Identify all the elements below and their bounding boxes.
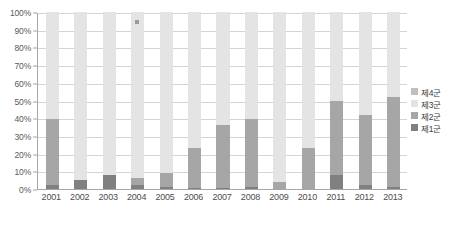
bar-segment[interactable] xyxy=(387,12,400,97)
legend-label: 제1군 xyxy=(421,122,441,134)
bar-segment[interactable] xyxy=(103,12,116,175)
bar-segment[interactable] xyxy=(188,12,201,148)
bar-stack[interactable] xyxy=(46,12,59,189)
bar-segment[interactable] xyxy=(245,12,258,119)
legend-item[interactable]: 제1군 xyxy=(411,122,454,133)
y-axis-tick-label: 100% xyxy=(10,8,31,18)
bar-segment[interactable] xyxy=(359,115,372,186)
bar-segment[interactable] xyxy=(273,182,286,189)
bar-segment[interactable] xyxy=(46,12,59,119)
bar-segment[interactable] xyxy=(46,119,59,184)
x-axis-tick-label: 2008 xyxy=(241,192,260,202)
bar-stack[interactable] xyxy=(131,12,144,189)
bar-segment[interactable] xyxy=(387,187,400,189)
bar-stack[interactable] xyxy=(103,12,116,189)
bar-segment[interactable] xyxy=(74,12,87,180)
bar-segment[interactable] xyxy=(131,185,144,189)
chart-legend: 제4군제3군제2군제1군 xyxy=(411,86,454,134)
y-axis-tick-label: 70% xyxy=(15,61,31,71)
x-axis-tick-label: 2007 xyxy=(212,192,231,202)
bar-segment[interactable] xyxy=(216,12,229,125)
x-axis-tick-label: 2010 xyxy=(298,192,317,202)
legend-swatch-icon xyxy=(411,112,418,119)
bar-segment[interactable] xyxy=(330,101,343,175)
bar-stack[interactable] xyxy=(302,12,315,189)
bar-segment[interactable] xyxy=(216,188,229,189)
legend-label: 제2군 xyxy=(421,110,441,122)
x-axis-tick-label: 2011 xyxy=(327,192,346,202)
x-axis: 2001200220032004200520062007200820092010… xyxy=(37,192,407,212)
y-axis-tick-label: 50% xyxy=(15,97,31,107)
y-axis-tick-label: 30% xyxy=(15,132,31,142)
bar-stack[interactable] xyxy=(74,12,87,189)
x-axis-tick-label: 2004 xyxy=(127,192,146,202)
bar-segment[interactable] xyxy=(273,12,286,182)
bar-stack[interactable] xyxy=(188,12,201,189)
bar-segment[interactable] xyxy=(131,178,144,186)
x-axis-tick-label: 2005 xyxy=(155,192,174,202)
x-axis-tick-label: 2006 xyxy=(184,192,203,202)
bar-stack[interactable] xyxy=(387,12,400,189)
bar-segment[interactable] xyxy=(302,148,315,189)
bar-segment[interactable] xyxy=(160,12,173,173)
x-axis-tick-label: 2001 xyxy=(42,192,61,202)
bar-segment[interactable] xyxy=(131,12,144,177)
legend-item[interactable]: 제4군 xyxy=(411,86,454,97)
y-axis: 0%10%20%30%40%50%60%70%80%90%100% xyxy=(0,0,37,190)
y-axis-tick-label: 10% xyxy=(15,167,31,177)
chart-container: 0%10%20%30%40%50%60%70%80%90%100% 200120… xyxy=(0,0,454,230)
bar-segment[interactable] xyxy=(160,187,173,189)
bar-segment[interactable] xyxy=(359,185,372,189)
legend-label: 제3군 xyxy=(421,98,441,110)
legend-swatch-icon xyxy=(411,88,418,95)
legend-item[interactable]: 제2군 xyxy=(411,110,454,121)
x-axis-tick-label: 2009 xyxy=(269,192,288,202)
x-axis-tick-label: 2002 xyxy=(70,192,89,202)
y-axis-tick-label: 80% xyxy=(15,43,31,53)
x-axis-tick-label: 2012 xyxy=(355,192,374,202)
bar-segment[interactable] xyxy=(330,175,343,189)
bar-segment[interactable] xyxy=(160,173,173,187)
bar-stack[interactable] xyxy=(330,12,343,189)
bar-stack[interactable] xyxy=(160,12,173,189)
y-axis-tick-label: 40% xyxy=(15,114,31,124)
legend-label: 제4군 xyxy=(421,86,441,98)
legend-item[interactable]: 제3군 xyxy=(411,98,454,109)
bar-stack[interactable] xyxy=(216,12,229,189)
x-axis-tick-label: 2003 xyxy=(99,192,118,202)
y-axis-tick-label: 0% xyxy=(19,185,31,195)
legend-swatch-icon xyxy=(411,124,418,131)
bar-stack[interactable] xyxy=(273,12,286,189)
bar-segment[interactable] xyxy=(103,175,116,189)
stray-data-marker xyxy=(135,20,139,24)
bar-segment[interactable] xyxy=(216,125,229,188)
bar-segment[interactable] xyxy=(245,119,258,187)
bar-segment[interactable] xyxy=(302,12,315,148)
legend-swatch-icon xyxy=(411,100,418,107)
bar-stack[interactable] xyxy=(359,12,372,189)
bar-segment[interactable] xyxy=(330,12,343,101)
bar-segment[interactable] xyxy=(188,148,201,188)
y-axis-tick-label: 90% xyxy=(15,26,31,36)
bar-segment[interactable] xyxy=(74,180,87,189)
bar-segment[interactable] xyxy=(245,187,258,189)
bar-segment[interactable] xyxy=(359,12,372,115)
y-axis-tick-label: 20% xyxy=(15,150,31,160)
plot-area xyxy=(37,13,407,190)
y-axis-tick-label: 60% xyxy=(15,79,31,89)
bar-segment[interactable] xyxy=(387,97,400,187)
bar-stack[interactable] xyxy=(245,12,258,189)
bar-segment[interactable] xyxy=(188,188,201,189)
x-axis-tick-label: 2013 xyxy=(383,192,402,202)
bar-segment[interactable] xyxy=(46,185,59,189)
